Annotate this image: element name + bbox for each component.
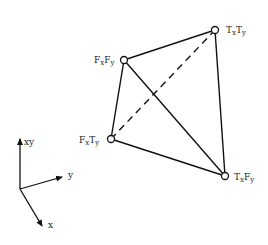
- axis-x-arrow-icon: [20, 189, 42, 226]
- edges: [111, 30, 225, 176]
- axis-label-x: x: [48, 220, 53, 230]
- node-fxfy: [121, 57, 128, 64]
- axis-label-y: y: [67, 170, 74, 180]
- edge-txty-txfy: [215, 30, 225, 176]
- label-txty: TxTy: [226, 25, 246, 37]
- axes: [20, 139, 62, 226]
- edge-fxty-txty-dashed: [111, 30, 215, 139]
- edge-fxfy-txfy: [124, 60, 225, 176]
- node-fxty: [108, 136, 115, 143]
- edge-fxfy-txty: [124, 30, 215, 60]
- nodes: [108, 27, 229, 180]
- label-txfy: TxFy: [234, 172, 254, 184]
- axis-y-arrow-icon: [20, 177, 62, 189]
- axis-label-xy: xy: [24, 137, 35, 147]
- node-txfy: [222, 173, 229, 180]
- edge-fxty-txfy: [111, 139, 225, 176]
- label-fxfy: FxFy: [94, 55, 114, 67]
- node-txty: [212, 27, 219, 34]
- lattice-diagram: TxTy FxFy FxTy TxFy xy y x: [0, 0, 268, 245]
- label-fxty: FxTy: [79, 135, 99, 147]
